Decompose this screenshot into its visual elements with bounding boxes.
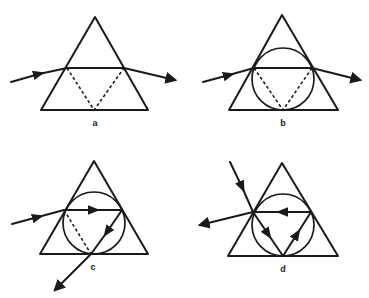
panel-label: c: [90, 262, 95, 272]
incoming-ray: [12, 210, 64, 224]
prism-triangle: [40, 161, 148, 254]
panel-label: d: [280, 264, 286, 274]
inscribed-circle: [63, 192, 125, 254]
dashed-reflection-path: [64, 210, 91, 254]
prism-triangle: [229, 15, 338, 110]
prism-triangle: [228, 163, 338, 256]
panel-b: b: [203, 15, 360, 128]
panel-c: c: [12, 161, 148, 290]
prism-triangle: [41, 17, 148, 110]
outgoing-ray: [55, 254, 91, 290]
outgoing-ray: [124, 68, 175, 80]
up-path: [283, 212, 311, 256]
panel-label: b: [280, 118, 286, 128]
outgoing-ray: [200, 212, 253, 225]
down-path: [253, 212, 283, 256]
panel-label: a: [92, 118, 98, 128]
dashed-reflection-path: [254, 68, 312, 110]
panel-a: a: [11, 17, 175, 128]
dashed-reflection-path: [67, 68, 124, 110]
panel-d: d: [200, 162, 338, 274]
incoming-ray: [230, 162, 253, 212]
diagram-svg: a b c d: [0, 0, 369, 298]
figure-canvas: a b c d: [0, 0, 369, 298]
reflected-path: [91, 210, 122, 254]
